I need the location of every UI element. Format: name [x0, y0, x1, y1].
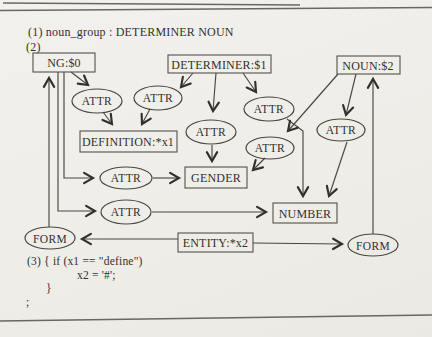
edge-determiner-attr4	[243, 73, 256, 92]
attr-label-5: ATTR	[255, 142, 285, 154]
attr-label-3: ATTR	[196, 126, 226, 138]
figure-canvas: (1) noun_group : DETERMINER NOUN (2) NG:…	[0, 0, 432, 337]
code-line-4: ;	[26, 296, 29, 308]
node-gender-label: GENDER	[191, 171, 241, 185]
attr-label-8: ATTR	[111, 206, 141, 218]
attr-label-4: ATTR	[254, 103, 284, 115]
edge-entity-formright	[253, 243, 342, 244]
node-noun: NOUN:$2	[337, 56, 400, 74]
edge-determiner-attr2	[181, 73, 193, 87]
top-rule-2	[0, 8, 432, 11]
attr-ellipse-3: ATTR	[186, 120, 236, 144]
attr-label-1: ATTR	[82, 95, 112, 107]
diagram-svg: (1) noun_group : DETERMINER NOUN (2) NG:…	[0, 0, 432, 337]
node-gender: GENDER	[185, 167, 247, 188]
attr-label-7: ATTR	[111, 172, 141, 184]
bottom-rule	[0, 315, 432, 321]
attr-ellipse-5: ATTR	[246, 137, 294, 159]
edge-attr4-number	[287, 119, 303, 196]
attr-ellipse-7: ATTR	[100, 167, 152, 189]
edge-attr1-definition	[103, 112, 112, 124]
section2-label: (2)	[26, 40, 41, 54]
node-number-label: NUMBER	[279, 207, 332, 221]
edge-ng-attr7	[64, 72, 93, 178]
grammar-rule-text: (1) noun_group : DETERMINER NOUN	[28, 25, 234, 39]
attr-label-2: ATTR	[143, 92, 173, 104]
code-line-1: (3) { if (x1 == "define")	[27, 255, 143, 268]
node-determiner: DETERMINER:$1	[168, 55, 271, 73]
top-rule-1	[3, 3, 300, 5]
edge-attr6-number	[329, 142, 347, 196]
attr-ellipse-1: ATTR	[72, 89, 122, 113]
form-label-left: FORM	[33, 233, 67, 245]
attr-ellipse-2: ATTR	[134, 86, 182, 110]
edge-ng-attr1	[71, 72, 88, 85]
edge-attr5-gender	[253, 158, 265, 170]
node-determiner-label: DETERMINER:$1	[171, 58, 266, 72]
form-ellipse-right: FORM	[348, 234, 398, 256]
edge-noun-attr6	[346, 74, 356, 115]
code-line-2: x2 = '#';	[77, 269, 116, 281]
edge-noun-attr5	[288, 74, 338, 131]
form-ellipse-left: FORM	[25, 227, 75, 249]
attr-ellipse-4: ATTR	[244, 97, 294, 121]
node-entity: ENTITY:*x2	[178, 233, 253, 252]
attr-ellipse-6: ATTR	[317, 119, 365, 141]
attr-label-6: ATTR	[326, 124, 356, 136]
node-ng-label: NG:$0	[47, 56, 81, 70]
edge-determiner-attr3	[213, 73, 216, 111]
node-definition: DEFINITION:*x1	[80, 131, 177, 152]
node-definition-label: DEFINITION:*x1	[82, 135, 174, 149]
edge-attr2-definition	[142, 109, 150, 124]
node-noun-label: NOUN:$2	[342, 59, 393, 73]
form-label-right: FORM	[356, 240, 390, 252]
code-line-3: }	[46, 282, 52, 294]
node-entity-label: ENTITY:*x2	[183, 236, 249, 250]
attr-ellipse-8: ATTR	[101, 200, 151, 224]
node-ng: NG:$0	[33, 53, 95, 72]
node-number: NUMBER	[273, 203, 337, 223]
